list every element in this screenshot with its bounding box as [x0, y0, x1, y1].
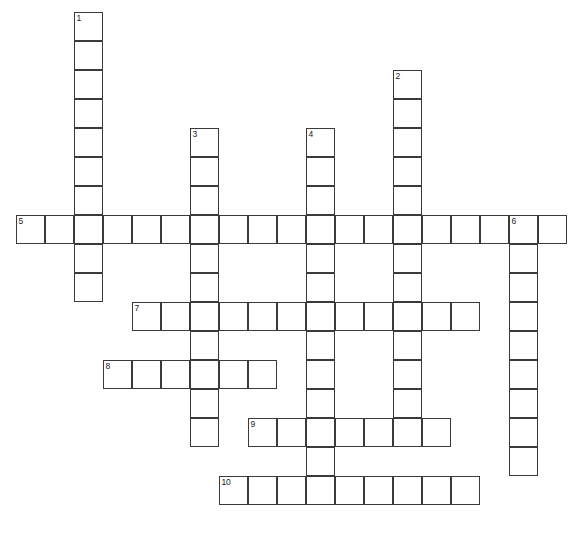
crossword-cell[interactable]: [335, 418, 364, 447]
crossword-cell[interactable]: [161, 302, 190, 331]
crossword-cell[interactable]: [45, 215, 74, 244]
crossword-cell[interactable]: [74, 41, 103, 70]
crossword-cell[interactable]: [509, 447, 538, 476]
crossword-cell[interactable]: [132, 215, 161, 244]
crossword-cell[interactable]: [393, 418, 422, 447]
crossword-cell[interactable]: [335, 476, 364, 505]
crossword-cell[interactable]: [422, 215, 451, 244]
crossword-cell[interactable]: [306, 157, 335, 186]
crossword-cell[interactable]: [393, 128, 422, 157]
crossword-cell[interactable]: [393, 157, 422, 186]
crossword-cell[interactable]: [393, 302, 422, 331]
crossword-cell[interactable]: [509, 360, 538, 389]
crossword-cell[interactable]: [335, 302, 364, 331]
crossword-cell[interactable]: [393, 389, 422, 418]
crossword-cell[interactable]: [393, 273, 422, 302]
crossword-cell[interactable]: [509, 302, 538, 331]
crossword-cell[interactable]: [219, 360, 248, 389]
crossword-cell[interactable]: [364, 215, 393, 244]
crossword-cell[interactable]: [451, 476, 480, 505]
crossword-cell[interactable]: [306, 360, 335, 389]
crossword-cell[interactable]: [364, 302, 393, 331]
crossword-cell[interactable]: [190, 215, 219, 244]
crossword-cell[interactable]: [74, 157, 103, 186]
crossword-cell[interactable]: [306, 418, 335, 447]
crossword-cell[interactable]: [393, 244, 422, 273]
crossword-cell[interactable]: [306, 215, 335, 244]
crossword-cell[interactable]: [161, 215, 190, 244]
crossword-cell[interactable]: [74, 99, 103, 128]
crossword-cell[interactable]: [190, 244, 219, 273]
crossword-cell[interactable]: [190, 302, 219, 331]
crossword-cell[interactable]: [306, 302, 335, 331]
crossword-cell[interactable]: [74, 244, 103, 273]
crossword-cell[interactable]: [306, 389, 335, 418]
crossword-cell[interactable]: [277, 418, 306, 447]
crossword-cell[interactable]: [277, 215, 306, 244]
crossword-cell[interactable]: [335, 215, 364, 244]
crossword-cell[interactable]: [306, 128, 335, 157]
crossword-cell[interactable]: [509, 215, 538, 244]
crossword-cell[interactable]: [190, 273, 219, 302]
crossword-cell[interactable]: [422, 302, 451, 331]
crossword-cell[interactable]: [393, 215, 422, 244]
crossword-cell[interactable]: [190, 331, 219, 360]
crossword-cell[interactable]: [277, 302, 306, 331]
crossword-cell[interactable]: [161, 360, 190, 389]
crossword-cell[interactable]: [74, 12, 103, 41]
crossword-cell[interactable]: [364, 476, 393, 505]
crossword-cell[interactable]: [306, 244, 335, 273]
crossword-cell[interactable]: [132, 360, 161, 389]
crossword-cell[interactable]: [219, 476, 248, 505]
crossword-cell[interactable]: [422, 476, 451, 505]
crossword-cell[interactable]: [190, 157, 219, 186]
crossword-cell[interactable]: [306, 447, 335, 476]
crossword-cell[interactable]: [393, 70, 422, 99]
crossword-cell[interactable]: [132, 302, 161, 331]
crossword-cell[interactable]: [74, 186, 103, 215]
crossword-cell[interactable]: [509, 273, 538, 302]
crossword-cell[interactable]: [190, 128, 219, 157]
crossword-cell[interactable]: [509, 331, 538, 360]
crossword-cell[interactable]: [393, 360, 422, 389]
crossword-cell[interactable]: [74, 215, 103, 244]
crossword-grid: 12345678910: [0, 0, 580, 535]
crossword-cell[interactable]: [219, 302, 248, 331]
crossword-cell[interactable]: [190, 186, 219, 215]
crossword-cell[interactable]: [364, 418, 393, 447]
crossword-cell[interactable]: [103, 215, 132, 244]
crossword-cell[interactable]: [248, 215, 277, 244]
crossword-cell[interactable]: [509, 389, 538, 418]
crossword-cell[interactable]: [393, 99, 422, 128]
crossword-cell[interactable]: [509, 244, 538, 273]
crossword-cell[interactable]: [248, 360, 277, 389]
crossword-cell[interactable]: [306, 331, 335, 360]
crossword-cell[interactable]: [190, 418, 219, 447]
crossword-cell[interactable]: [451, 215, 480, 244]
crossword-cell[interactable]: [103, 360, 132, 389]
crossword-cell[interactable]: [393, 331, 422, 360]
crossword-cell[interactable]: [509, 418, 538, 447]
crossword-cell[interactable]: [422, 418, 451, 447]
crossword-cell[interactable]: [16, 215, 45, 244]
crossword-cell[interactable]: [248, 476, 277, 505]
crossword-cell[interactable]: [248, 302, 277, 331]
crossword-cell[interactable]: [306, 186, 335, 215]
crossword-cell[interactable]: [306, 476, 335, 505]
crossword-cell[interactable]: [277, 476, 306, 505]
crossword-cell[interactable]: [393, 476, 422, 505]
crossword-cell[interactable]: [74, 273, 103, 302]
crossword-cell[interactable]: [393, 186, 422, 215]
crossword-cell[interactable]: [190, 360, 219, 389]
crossword-cell[interactable]: [190, 389, 219, 418]
crossword-cell[interactable]: [451, 302, 480, 331]
crossword-cell[interactable]: [219, 215, 248, 244]
crossword-cell[interactable]: [248, 418, 277, 447]
crossword-cell[interactable]: [538, 215, 567, 244]
crossword-cell[interactable]: [74, 70, 103, 99]
crossword-cell[interactable]: [306, 273, 335, 302]
crossword-cell[interactable]: [480, 215, 509, 244]
crossword-cell[interactable]: [74, 128, 103, 157]
